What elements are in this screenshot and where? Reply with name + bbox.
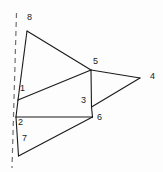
vertex-label-7: 7 <box>22 134 27 143</box>
vertex-label-6: 6 <box>97 113 102 122</box>
edge-5-4 <box>91 70 140 78</box>
vertex-label-4: 4 <box>150 72 155 81</box>
edge-8-5 <box>27 31 91 70</box>
vertex-label-1: 1 <box>20 84 25 93</box>
polygon-edge-group <box>16 31 140 156</box>
figure-canvas: 12345678 <box>0 0 163 172</box>
vertex-label-8: 8 <box>27 13 32 22</box>
vertex-label-2: 2 <box>18 118 23 127</box>
edge-4-3 <box>92 78 141 107</box>
edge-1-2 <box>16 100 18 117</box>
edge-5-3 <box>91 70 92 107</box>
edge-3-6 <box>92 107 93 117</box>
dashed-reference-line <box>12 13 17 168</box>
vertex-label-5: 5 <box>93 57 98 66</box>
edge-7-6 <box>19 117 93 156</box>
vertex-label-3: 3 <box>81 96 86 105</box>
